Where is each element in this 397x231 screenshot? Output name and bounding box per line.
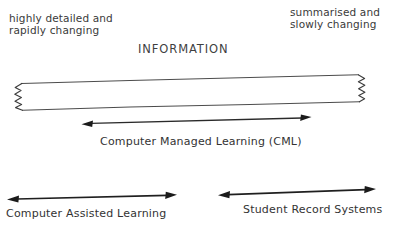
arrow-cml-left-head-icon (82, 120, 94, 127)
arrow-srs-left-head-icon (218, 191, 230, 198)
arrow-label-srs: Student Record Systems (243, 204, 382, 217)
diagram-title-information: INFORMATION (138, 43, 229, 57)
arrow-cal-shaft (17, 195, 167, 199)
arrow-cal (7, 192, 177, 203)
arrow-cal-right-head-icon (165, 192, 177, 199)
arrow-srs-right-head-icon (364, 186, 376, 193)
arrow-srs (218, 186, 376, 198)
arrow-label-cml: Computer Managed Learning (CML) (100, 136, 302, 149)
band-top-edge (22, 75, 359, 84)
arrow-srs-shaft (228, 190, 366, 195)
diagram-canvas: highly detailed and rapidly changing sum… (0, 0, 397, 231)
band-right-squiggle-icon (358, 75, 365, 102)
band-left-squiggle-icon (15, 83, 23, 110)
caption-top-left: highly detailed and rapidly changing (9, 12, 113, 37)
caption-top-right: summarised and slowly changing (290, 6, 380, 31)
arrow-cml-shaft (91, 118, 302, 123)
arrow-label-cal: Computer Assisted Learning (6, 208, 166, 221)
arrow-cml (82, 115, 312, 128)
arrow-cal-left-head-icon (7, 195, 19, 202)
band-bottom-edge (23, 102, 360, 110)
information-band (15, 75, 365, 111)
arrow-cml-right-head-icon (300, 115, 311, 122)
